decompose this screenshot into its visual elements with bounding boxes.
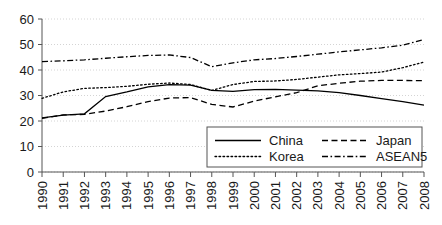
- x-tick-label-1994: 1994: [119, 181, 134, 210]
- y-axis-tick-labels: 6050403020100: [20, 12, 34, 180]
- legend-label-japan: Japan: [376, 133, 411, 148]
- series-line-china: [42, 85, 424, 118]
- y-tick-label-20: 20: [20, 114, 34, 129]
- x-tick-label-1995: 1995: [141, 181, 156, 210]
- x-tick-label-1991: 1991: [56, 181, 71, 210]
- legend-label-china: China: [269, 133, 304, 148]
- y-tick-label-40: 40: [20, 63, 34, 78]
- series-line-asean5: [42, 39, 424, 66]
- x-tick-label-2003: 2003: [310, 181, 325, 210]
- series-line-japan: [42, 80, 424, 118]
- x-tick-label-1993: 1993: [98, 181, 113, 210]
- x-tick-label-2001: 2001: [268, 181, 283, 210]
- x-tick-label-1997: 1997: [183, 181, 198, 210]
- legend-label-korea: Korea: [269, 149, 304, 164]
- x-axis-tick-labels: 1990199119921993199419951996199719981999…: [35, 181, 432, 210]
- x-tick-label-2008: 2008: [417, 181, 432, 210]
- y-tick-label-60: 60: [20, 12, 34, 27]
- y-tick-label-10: 10: [20, 139, 34, 154]
- x-tick-label-2006: 2006: [374, 181, 389, 210]
- x-tick-label-1996: 1996: [162, 181, 177, 210]
- x-tick-label-2000: 2000: [247, 181, 262, 210]
- series-line-korea: [42, 62, 424, 98]
- x-tick-label-2005: 2005: [353, 181, 368, 210]
- x-tick-label-2004: 2004: [332, 181, 347, 210]
- chart-legend: ChinaJapanKoreaASEAN5: [207, 127, 427, 167]
- line-chart: 6050403020100 19901991199219931994199519…: [0, 0, 442, 225]
- y-tick-label-30: 30: [20, 88, 34, 103]
- x-tick-label-1992: 1992: [77, 181, 92, 210]
- x-tick-label-2007: 2007: [395, 181, 410, 210]
- chart-canvas: 6050403020100 19901991199219931994199519…: [0, 0, 442, 225]
- legend-label-asean5: ASEAN5: [376, 149, 427, 164]
- x-tick-label-1990: 1990: [35, 181, 50, 210]
- y-tick-label-0: 0: [27, 165, 34, 180]
- x-tick-label-1998: 1998: [204, 181, 219, 210]
- x-tick-label-1999: 1999: [226, 181, 241, 210]
- data-series-group: [42, 39, 424, 118]
- y-tick-label-50: 50: [20, 37, 34, 52]
- x-tick-label-2002: 2002: [289, 181, 304, 210]
